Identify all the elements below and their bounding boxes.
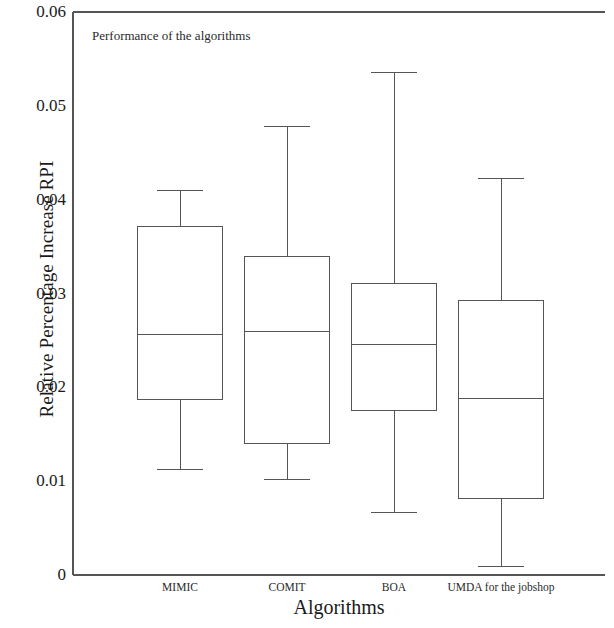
x-tick-label: UMDA for the jobshop	[447, 581, 554, 593]
x-tick-label: BOA	[382, 581, 406, 593]
x-tick-label: COMIT	[268, 581, 305, 593]
x-axis-tick-labels: MIMICCOMITBOAUMDA for the jobshop	[0, 0, 614, 628]
plot-title: Performance of the algorithms	[92, 28, 250, 44]
x-axis-title: Algorithms	[73, 596, 605, 619]
x-tick-label: MIMIC	[162, 581, 198, 593]
box-plot-chart: Relative Percentage Increase RPI 00.010.…	[0, 0, 614, 628]
